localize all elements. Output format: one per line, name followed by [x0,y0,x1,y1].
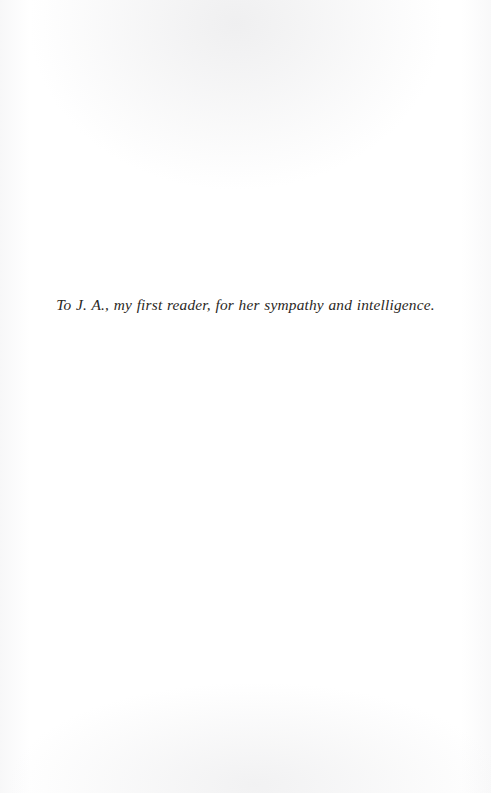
dedication-text: To J. A., my first reader, for her sympa… [56,294,434,316]
scanned-book-page: To J. A., my first reader, for her sympa… [0,0,491,793]
paper-texture-overlay [0,0,491,793]
dedication-block: To J. A., my first reader, for her sympa… [0,294,491,316]
